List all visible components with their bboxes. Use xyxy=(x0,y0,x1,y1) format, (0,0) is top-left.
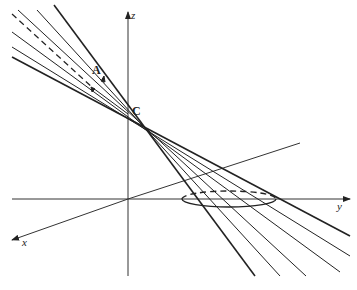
x-axis xyxy=(12,199,128,240)
arrow-down-icon xyxy=(91,87,95,92)
generator-lines xyxy=(12,5,350,276)
cone-diagram: z y x C A xyxy=(0,0,357,290)
ellipse-front xyxy=(182,199,276,207)
generator-line xyxy=(54,5,255,276)
diagram-svg xyxy=(0,0,357,290)
generator-line xyxy=(37,10,280,276)
generator-line xyxy=(12,32,340,272)
generator-line xyxy=(12,57,350,236)
generator-dashed-segment xyxy=(93,88,128,114)
z-axis-label: z xyxy=(131,9,135,21)
y-axis-label: y xyxy=(337,200,342,212)
x-axis-label: x xyxy=(22,236,27,248)
point-a-label: A xyxy=(92,63,101,78)
generator-dashed xyxy=(12,14,93,88)
arrow-up-icon xyxy=(101,76,105,82)
generator-line xyxy=(18,10,306,276)
vertex-c-label: C xyxy=(132,104,141,119)
generator-line xyxy=(12,47,350,256)
